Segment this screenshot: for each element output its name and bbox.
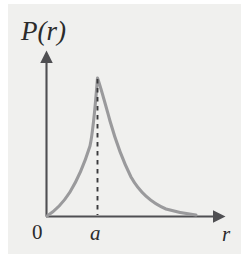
y-axis-label: P(r)	[21, 18, 66, 45]
origin-label: 0	[32, 222, 43, 243]
x-axis-label: r	[222, 224, 230, 245]
radial-probability-figure: P(r) r a 0	[0, 0, 251, 260]
x-axis-tick-label-a: a	[90, 223, 101, 244]
probability-density-curve	[47, 78, 196, 216]
